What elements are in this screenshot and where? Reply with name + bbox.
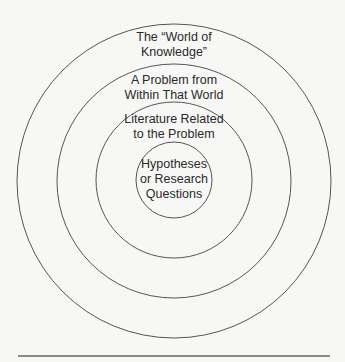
label-problem: A Problem from Within That World bbox=[104, 73, 244, 103]
label-world-of-knowledge: The “World of Knowledge” bbox=[104, 30, 244, 60]
label-literature: Literature Related to the Problem bbox=[104, 112, 244, 142]
label-hypotheses: Hypotheses or Research Questions bbox=[124, 157, 224, 202]
